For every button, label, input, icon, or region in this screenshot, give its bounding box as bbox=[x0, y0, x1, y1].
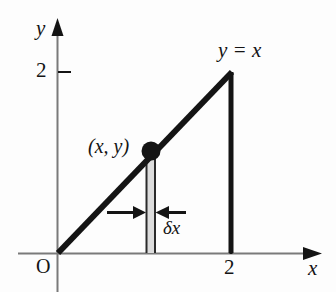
x-tick-label-2: 2 bbox=[224, 257, 235, 278]
graph-svg bbox=[0, 0, 336, 292]
delta-x-left-arrow-head bbox=[133, 206, 146, 219]
figure-canvas: y 2 O 2 x y = x (x, y) δx bbox=[0, 0, 336, 292]
point-marker-xy bbox=[142, 142, 161, 161]
origin-label: O bbox=[36, 256, 50, 276]
y-axis-arrowhead bbox=[52, 18, 64, 36]
line-y-equals-x bbox=[58, 72, 232, 253]
delta-x-label: δx bbox=[163, 218, 180, 237]
point-coordinate-label: (x, y) bbox=[88, 136, 129, 156]
y-axis-label: y bbox=[36, 18, 45, 39]
x-axis-label: x bbox=[308, 258, 317, 279]
line-equation-label: y = x bbox=[218, 40, 261, 61]
y-tick-label-2: 2 bbox=[36, 60, 47, 81]
